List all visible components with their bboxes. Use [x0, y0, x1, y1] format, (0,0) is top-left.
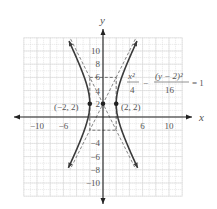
equation-rhs: = 1	[192, 78, 204, 88]
equation-term2-denominator: 16	[165, 85, 175, 95]
y-tick-label: 4	[96, 86, 101, 96]
equation-minus: −	[143, 78, 148, 88]
equation-label: x² 4 − (y − 2)² 16 = 1	[127, 71, 204, 95]
y-tick-label: −10	[86, 178, 101, 188]
x-axis-arrow-left-icon	[14, 115, 20, 120]
y-tick-label: 6	[96, 72, 101, 82]
equation-term1-numerator: x²	[127, 71, 135, 81]
y-tick-label: 10	[91, 46, 101, 56]
point-label-left: (−2, 2)	[54, 102, 79, 112]
x-tick-label: −6	[59, 121, 69, 131]
y-axis-arrow-up-icon	[101, 29, 106, 35]
point-marker	[101, 102, 106, 107]
point-marker	[114, 102, 119, 107]
x-tick-label: −10	[30, 121, 45, 131]
y-axis-arrow-down-icon	[101, 198, 106, 204]
point-marker	[88, 102, 93, 107]
x-tick-label: 10	[165, 121, 175, 131]
x-tick-label: 6	[140, 121, 145, 131]
y-axis-label: y	[99, 14, 105, 26]
y-tick-label: −6	[90, 152, 100, 162]
x-axis-label: x	[198, 111, 204, 123]
point-label-right: (2, 2)	[121, 102, 141, 112]
y-tick-label: 8	[96, 59, 101, 69]
axes	[14, 29, 192, 204]
equation-term2-numerator: (y − 2)²	[155, 71, 183, 81]
equation-term1-denominator: 4	[130, 85, 135, 95]
hyperbola-chart: −10−6610108642−4−6−8−10 x y x² 4 − (y − …	[0, 0, 217, 209]
y-tick-label: −8	[90, 165, 100, 175]
x-axis-arrow-right-icon	[186, 115, 192, 120]
y-tick-label: 2	[96, 99, 101, 109]
y-tick-label: −4	[90, 138, 100, 148]
